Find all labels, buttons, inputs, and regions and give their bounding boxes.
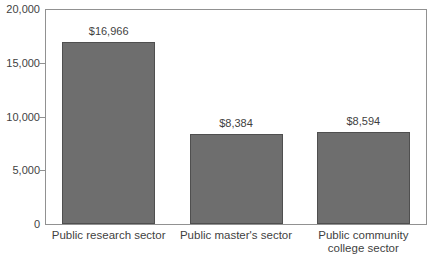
x-category-label: Public community college sector (291, 229, 435, 255)
y-tick-label: 20,000 (0, 4, 40, 15)
y-tick-label: 15,000 (0, 58, 40, 69)
bar (317, 132, 410, 224)
y-tick-label: 5,000 (0, 165, 40, 176)
x-category-label: Public master's sector (164, 229, 308, 242)
bar-value-label: $8,594 (313, 115, 413, 127)
bar (190, 134, 283, 224)
y-tick-label: 0 (0, 219, 40, 230)
y-tick-label: 10,000 (0, 112, 40, 123)
bar-value-label: $16,966 (59, 25, 159, 37)
bar-chart: 05,00010,00015,00020,000$16,966Public re… (0, 0, 435, 260)
x-category-label: Public research sector (37, 229, 181, 242)
y-tick-mark (39, 63, 45, 64)
bar (62, 42, 155, 224)
y-tick-mark (39, 117, 45, 118)
y-tick-mark (39, 170, 45, 171)
bar-value-label: $8,384 (186, 117, 286, 129)
